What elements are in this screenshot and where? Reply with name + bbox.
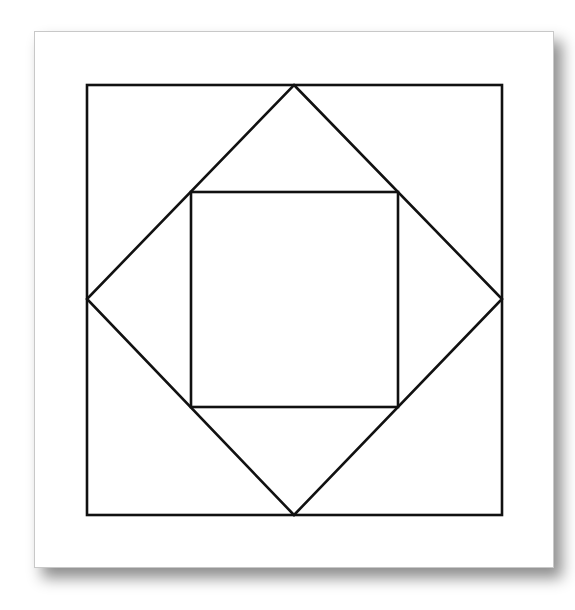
inner-square [191, 192, 398, 407]
outer-square [87, 85, 502, 515]
diamond [87, 85, 502, 515]
nested-squares-diagram [0, 0, 575, 610]
